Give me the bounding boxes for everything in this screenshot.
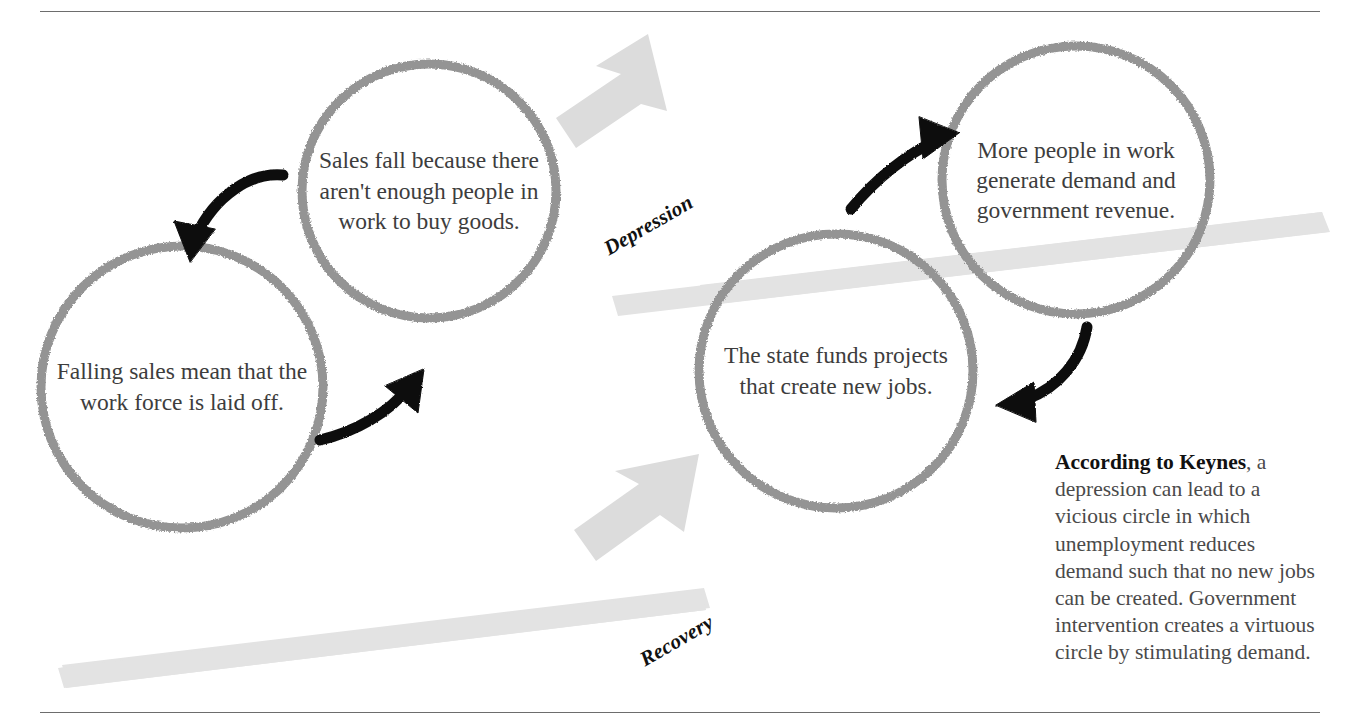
- circle-more-people-in-work: More people in work generate demand and …: [940, 44, 1212, 316]
- circle-sales-fall-text: Sales fall because there aren't enough p…: [300, 145, 558, 237]
- circle-state-funds-projects: The state funds projects that create new…: [697, 232, 975, 510]
- caption-body: , a depression can lead to a vicious cir…: [1055, 450, 1315, 664]
- circle-falling-sales-text: Falling sales mean that the work force i…: [38, 356, 326, 417]
- circle-sales-fall: Sales fall because there aren't enough p…: [300, 62, 558, 320]
- circle-state-funds-projects-text: The state funds projects that create new…: [697, 340, 975, 401]
- caption-lead: According to Keynes: [1055, 450, 1246, 474]
- curved-arrow-falling-to-sales-icon: [320, 369, 424, 440]
- diagram-canvas: Falling sales mean that the work force i…: [0, 0, 1360, 726]
- circle-more-people-in-work-text: More people in work generate demand and …: [940, 135, 1212, 225]
- caption-block: According to Keynes, a depression can le…: [1055, 449, 1317, 667]
- circle-falling-sales: Falling sales mean that the work force i…: [38, 243, 326, 531]
- curved-arrow-people-to-state-icon: [996, 327, 1087, 422]
